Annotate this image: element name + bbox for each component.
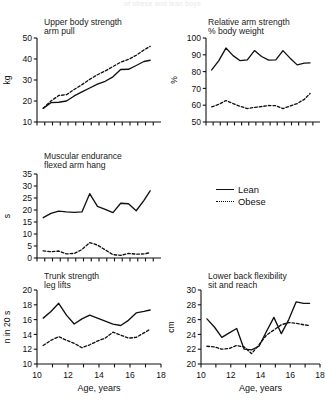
panel-subtitle-relative-arm-strength: % body weight xyxy=(208,26,264,36)
legend-label-obese: Obese xyxy=(238,196,266,207)
svg-text:22: 22 xyxy=(186,344,196,354)
svg-text:10: 10 xyxy=(22,229,32,239)
svg-text:kg: kg xyxy=(2,75,12,84)
svg-text:35: 35 xyxy=(22,169,32,179)
svg-text:24: 24 xyxy=(186,330,196,340)
panel-subtitle-trunk-strength: leg lifts xyxy=(44,280,71,290)
legend: Lean Obese xyxy=(216,183,266,207)
svg-text:14: 14 xyxy=(94,370,104,380)
svg-text:18: 18 xyxy=(22,300,32,310)
svg-text:0: 0 xyxy=(27,253,32,263)
series-obese xyxy=(212,93,310,108)
svg-text:100: 100 xyxy=(187,33,202,43)
series-obese xyxy=(43,46,150,108)
svg-text:10: 10 xyxy=(32,370,42,380)
svg-text:Age, years: Age, years xyxy=(77,383,121,393)
panel-subtitle-lower-back-flexibility: sit and reach xyxy=(208,280,257,290)
svg-text:80: 80 xyxy=(191,67,201,77)
svg-text:n in 20 s: n in 20 s xyxy=(2,311,12,344)
figure-suptitle: of obese and lean boys xyxy=(0,0,325,7)
svg-text:16: 16 xyxy=(22,315,32,325)
svg-text:25: 25 xyxy=(22,193,32,203)
svg-text:14: 14 xyxy=(22,330,32,340)
svg-text:40: 40 xyxy=(22,54,32,64)
panel-subtitle-upper-body-strength: arm pull xyxy=(44,26,75,36)
figure-panel-grid: of obese and lean boys Upper body streng… xyxy=(0,0,325,400)
series-obese xyxy=(43,329,150,348)
svg-text:20: 20 xyxy=(22,285,32,295)
svg-text:26: 26 xyxy=(186,315,196,325)
svg-text:14: 14 xyxy=(256,370,266,380)
series-lean xyxy=(43,191,150,218)
svg-text:70: 70 xyxy=(191,84,201,94)
legend-item-obese: Obese xyxy=(216,195,266,207)
svg-text:Age, years: Age, years xyxy=(239,383,283,393)
svg-text:90: 90 xyxy=(191,50,201,60)
panel-muscular-endurance: Muscular endurance flexed arm hang 05101… xyxy=(4,152,164,274)
panel-lower-back-flexibility: Lower back flexibility sit and reach 202… xyxy=(168,272,323,397)
panel-upper-body-strength: Upper body strength arm pull 1020304050k… xyxy=(4,14,164,139)
svg-text:20: 20 xyxy=(186,359,196,369)
svg-text:20: 20 xyxy=(22,96,32,106)
svg-text:%: % xyxy=(169,76,179,84)
svg-text:30: 30 xyxy=(22,75,32,85)
svg-text:18: 18 xyxy=(315,370,325,380)
svg-text:s: s xyxy=(2,214,12,218)
svg-text:20: 20 xyxy=(22,205,32,215)
svg-text:10: 10 xyxy=(196,370,206,380)
panel-subtitle-muscular-endurance: flexed arm hang xyxy=(44,160,106,170)
svg-text:50: 50 xyxy=(191,117,201,127)
series-obese xyxy=(43,243,150,256)
svg-text:12: 12 xyxy=(226,370,236,380)
svg-text:28: 28 xyxy=(186,300,196,310)
svg-text:cm: cm xyxy=(166,321,176,332)
legend-swatch-lean xyxy=(216,189,234,190)
panel-relative-arm-strength: Relative arm strength % body weight 5060… xyxy=(168,14,323,139)
svg-text:50: 50 xyxy=(22,33,32,43)
series-lean xyxy=(43,60,150,108)
legend-swatch-obese xyxy=(216,201,234,202)
svg-text:15: 15 xyxy=(22,217,32,227)
svg-text:12: 12 xyxy=(22,344,32,354)
svg-text:16: 16 xyxy=(125,370,135,380)
legend-label-lean: Lean xyxy=(238,184,259,195)
svg-text:30: 30 xyxy=(22,181,32,191)
svg-text:10: 10 xyxy=(22,359,32,369)
svg-text:5: 5 xyxy=(27,241,32,251)
svg-text:10: 10 xyxy=(22,117,32,127)
legend-item-lean: Lean xyxy=(216,183,266,195)
panel-trunk-strength: Trunk strength leg lifts 101214161820101… xyxy=(4,272,164,397)
series-lean xyxy=(207,302,310,350)
svg-text:16: 16 xyxy=(285,370,295,380)
svg-text:18: 18 xyxy=(156,370,166,380)
svg-text:12: 12 xyxy=(63,370,73,380)
series-lean xyxy=(212,48,310,70)
series-lean xyxy=(43,303,150,325)
svg-text:30: 30 xyxy=(186,285,196,295)
series-obese xyxy=(207,323,310,354)
svg-text:60: 60 xyxy=(191,100,201,110)
